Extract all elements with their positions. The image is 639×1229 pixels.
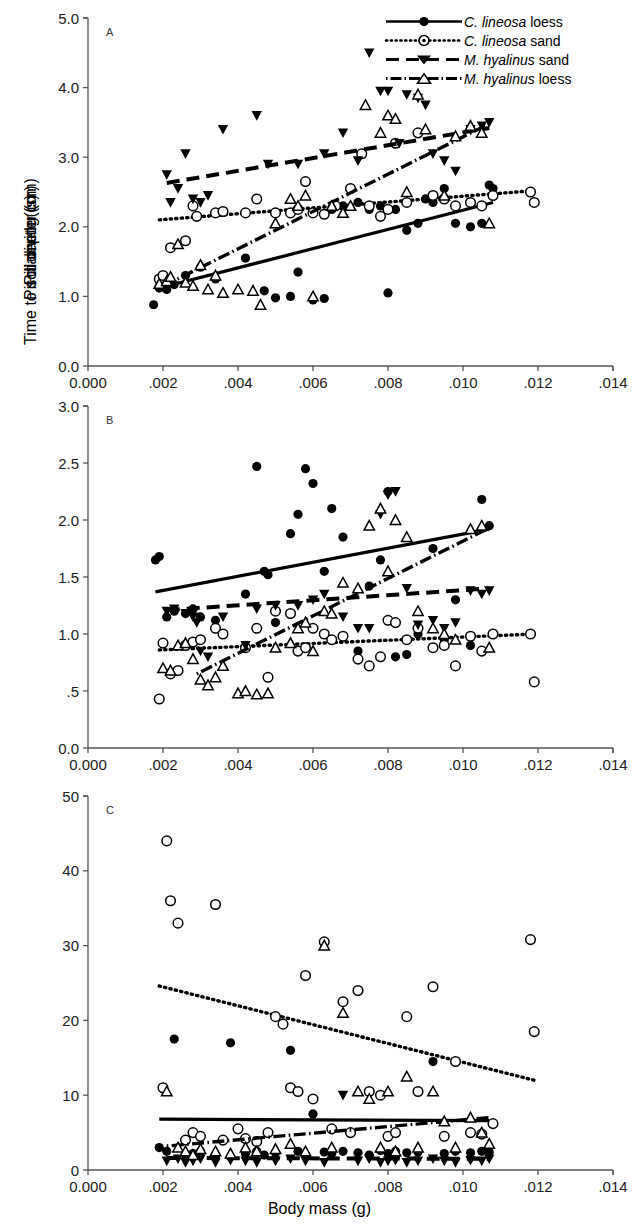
data-point: [210, 1158, 220, 1168]
data-point: [240, 686, 250, 696]
data-point: [300, 190, 310, 200]
legend-label-m-hyalinus-sand: M. hyalinus sand: [464, 52, 569, 68]
data-point: [413, 1087, 423, 1097]
data-point: [526, 629, 536, 639]
legend-item: C. lineosa sand: [384, 31, 639, 50]
x-tick-label: .010: [448, 374, 477, 390]
data-point: [286, 609, 296, 619]
panel-letter: B: [106, 414, 113, 426]
data-point: [391, 1128, 401, 1138]
data-point: [203, 652, 213, 662]
data-point: [293, 601, 303, 611]
y-tick-label: .5: [66, 683, 79, 700]
data-point: [364, 661, 374, 671]
data-point: [338, 1008, 348, 1018]
regression-line: [167, 128, 490, 183]
data-point: [466, 222, 475, 231]
data-point: [285, 638, 295, 648]
y-tick-label: 3.0: [58, 149, 79, 166]
data-point: [477, 1157, 487, 1167]
y-tick-label: 20: [62, 1012, 79, 1029]
panel-letter: C: [106, 804, 114, 816]
data-point: [353, 156, 363, 166]
y-tick-label: 2.0: [58, 218, 79, 235]
x-tick-label: .010: [448, 1178, 477, 1195]
data-point: [263, 570, 272, 579]
data-point: [338, 533, 347, 542]
data-point: [428, 643, 438, 653]
regression-line: [197, 528, 490, 674]
panel-c-y-axis-title: Time to soil diving (s): [22, 194, 40, 345]
data-point: [319, 1158, 329, 1168]
data-point: [195, 674, 205, 684]
legend-species-name: C. lineosa: [464, 14, 526, 30]
data-point: [364, 624, 374, 634]
data-point: [466, 1128, 476, 1138]
data-point: [270, 218, 280, 228]
x-tick-label: .012: [523, 1178, 552, 1195]
x-tick-label: .006: [298, 374, 327, 390]
data-point: [252, 194, 262, 204]
y-tick-label: 3.0: [58, 398, 79, 415]
data-point: [241, 590, 250, 599]
data-point: [271, 293, 280, 302]
data-point: [353, 654, 363, 664]
scatter-figure: 0.01.02.03.04.05.00.000.002.004.006.008.…: [0, 0, 639, 1229]
data-point: [226, 1038, 235, 1047]
data-point: [255, 300, 265, 310]
y-tick-label: 10: [62, 1087, 79, 1104]
data-point: [180, 149, 190, 159]
data-point: [375, 503, 385, 513]
data-point: [451, 219, 460, 228]
data-point: [162, 836, 172, 846]
data-point: [375, 128, 385, 138]
data-point: [252, 624, 262, 634]
data-point: [484, 1154, 494, 1164]
legend: C. lineosa loess C. lineosa sand M. hyal…: [384, 12, 639, 88]
data-point: [451, 595, 460, 604]
data-point: [192, 618, 202, 628]
data-point: [390, 1156, 400, 1166]
data-point: [375, 1158, 385, 1168]
data-point: [260, 286, 269, 295]
data-point: [211, 900, 221, 910]
data-point: [402, 187, 412, 197]
data-point: [233, 1124, 243, 1134]
x-tick-label: .002: [148, 1178, 177, 1195]
data-point: [402, 532, 412, 542]
y-tick-label: 2.5: [58, 455, 79, 472]
data-point: [477, 201, 487, 211]
data-point: [353, 986, 363, 996]
data-point: [450, 618, 460, 628]
data-point: [383, 491, 393, 501]
legend-item: C. lineosa loess: [384, 12, 639, 31]
x-tick-label: 0.000: [69, 374, 107, 390]
data-point: [450, 1142, 460, 1152]
data-point: [413, 606, 423, 616]
panel-letter: A: [106, 26, 114, 38]
data-point: [293, 267, 302, 276]
data-point: [271, 1012, 281, 1022]
data-point: [149, 300, 158, 309]
data-point: [529, 677, 539, 687]
y-tick-label: 1.0: [58, 288, 79, 305]
data-point: [488, 191, 498, 201]
data-point: [240, 1157, 250, 1167]
y-tick-label: 1.0: [58, 626, 79, 643]
data-point: [484, 1139, 494, 1149]
legend-species-name: M. hyalinus: [464, 52, 535, 68]
legend-item: M. hyalinus loess: [384, 69, 639, 88]
legend-key-c-lineosa-loess: [384, 12, 464, 31]
data-point: [308, 1094, 318, 1104]
data-point: [162, 170, 172, 180]
x-tick-label: .008: [373, 756, 402, 773]
data-layer: [155, 836, 539, 1168]
data-point: [390, 515, 400, 525]
x-tick-label: .006: [298, 1178, 327, 1195]
data-point: [383, 110, 393, 120]
data-point: [293, 160, 303, 170]
data-point: [353, 1148, 362, 1157]
data-point: [360, 100, 370, 110]
data-point: [439, 1157, 449, 1167]
data-point: [181, 236, 191, 246]
